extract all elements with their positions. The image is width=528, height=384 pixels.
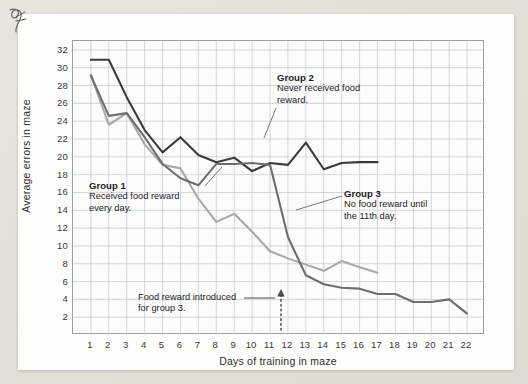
x-tick-label: 11: [264, 339, 274, 350]
x-axis-ticks: 12345678910111213141516171819202122: [0, 339, 528, 355]
annotation-intro-line1: Food reward introduced: [138, 292, 246, 303]
y-tick-label: 12: [57, 222, 68, 233]
chart-figure: 2468101214161820222426283032 Average err…: [0, 0, 528, 384]
y-tick-label: 2: [63, 311, 68, 322]
y-tick-label: 16: [57, 186, 68, 197]
annotation-group-2-line2: reward.: [277, 95, 389, 106]
y-tick-label: 24: [57, 115, 68, 126]
x-axis-label: Days of training in maze: [72, 355, 484, 367]
y-tick-label: 22: [57, 133, 68, 144]
annotation-group-3-line2: the 11th day.: [344, 211, 464, 222]
y-tick-label: 4: [63, 293, 68, 304]
annotation-group-1-title: Group 1: [89, 180, 204, 191]
y-tick-label: 20: [57, 150, 68, 161]
x-tick-label: 7: [195, 339, 200, 350]
y-tick-label: 26: [57, 97, 68, 108]
y-tick-label: 6: [63, 275, 68, 286]
x-tick-label: 15: [335, 339, 346, 350]
x-tick-label: 3: [123, 339, 128, 350]
y-tick-label: 30: [57, 61, 68, 72]
annotation-group-3-title: Group 3: [344, 188, 464, 199]
y-axis-ticks: 2468101214161820222426283032: [44, 0, 68, 384]
x-tick-label: 12: [281, 339, 292, 350]
x-tick-label: 8: [213, 339, 218, 350]
x-tick-label: 9: [230, 339, 235, 350]
x-tick-label: 20: [425, 339, 436, 350]
annotation-group-2-line1: Never received food: [277, 83, 389, 94]
x-tick-label: 4: [141, 339, 146, 350]
x-tick-label: 21: [443, 339, 454, 350]
annotation-group-3-line1: No food reward until: [344, 199, 464, 210]
x-tick-label: 13: [299, 339, 310, 350]
annotation-group-3: Group 3 No food reward until the 11th da…: [344, 188, 464, 222]
y-tick-label: 14: [57, 204, 68, 215]
x-tick-label: 14: [317, 339, 328, 350]
x-tick-label: 16: [353, 339, 364, 350]
annotation-intro-line2: for group 3.: [138, 303, 246, 314]
x-tick-label: 19: [407, 339, 418, 350]
annotation-group-1-line2: every day.: [89, 203, 204, 214]
y-tick-label: 8: [63, 257, 68, 268]
annotation-group-1: Group 1 Received food reward every day.: [89, 180, 204, 214]
y-tick-label: 28: [57, 79, 68, 90]
page-background: 2468101214161820222426283032 Average err…: [0, 0, 528, 384]
annotation-group-2-title: Group 2: [277, 72, 389, 83]
annotation-group-2: Group 2 Never received food reward.: [277, 72, 389, 106]
y-tick-label: 32: [57, 43, 68, 54]
annotation-food-reward-introduced: Food reward introduced for group 3.: [138, 292, 246, 315]
y-axis-label: Average errors in maze: [20, 56, 32, 256]
x-tick-label: 17: [371, 339, 382, 350]
x-tick-label: 5: [159, 339, 164, 350]
x-tick-label: 1: [87, 339, 92, 350]
x-tick-label: 10: [246, 339, 257, 350]
x-tick-label: 18: [389, 339, 400, 350]
annotation-group-1-line1: Received food reward: [89, 191, 204, 202]
y-tick-label: 10: [57, 239, 68, 250]
y-tick-label: 18: [57, 168, 68, 179]
x-tick-label: 2: [105, 339, 110, 350]
x-tick-label: 6: [177, 339, 182, 350]
x-tick-label: 22: [461, 339, 472, 350]
